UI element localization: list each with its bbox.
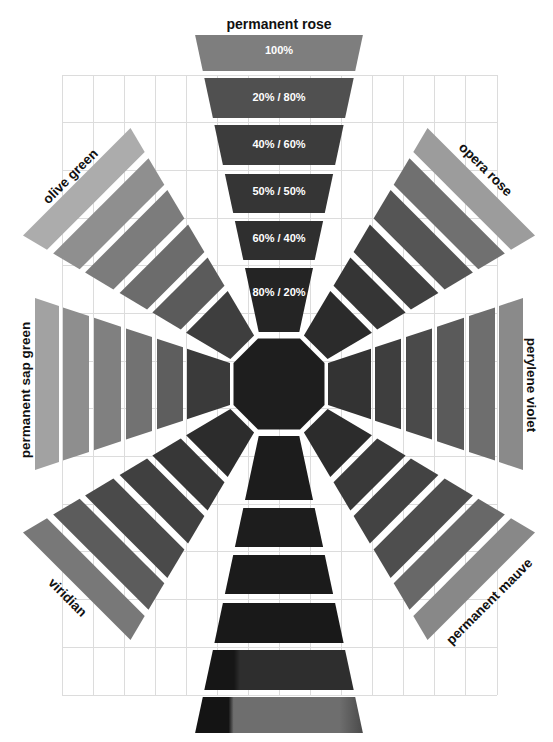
mix-label-4: 50% / 50% — [252, 185, 305, 197]
swatch-permanent-sap-green-5 — [157, 339, 183, 430]
mix-label-5: 60% / 40% — [252, 232, 305, 244]
swatch-bottom-6 — [245, 436, 313, 500]
swatch-bottom-2 — [204, 650, 353, 690]
mix-label-3: 40% / 60% — [252, 138, 305, 150]
swatch-perylene-violet-3 — [437, 318, 464, 451]
swatch-permanent-sap-green-1 — [35, 298, 59, 470]
swatch-perylene-violet-1 — [499, 298, 523, 470]
center-octagon — [234, 339, 325, 430]
mix-label-1: 100% — [265, 44, 293, 56]
swatch-perylene-violet-2 — [469, 307, 495, 460]
swatch-permanent-sap-green-3 — [94, 318, 121, 451]
swatch-bottom-3 — [214, 603, 343, 643]
swatch-permanent-sap-green-2 — [63, 307, 89, 460]
swatch-bottom-1 — [195, 697, 363, 733]
spoke-label-perylene-violet: perylene violet — [524, 338, 539, 433]
swatch-bottom-4 — [225, 555, 333, 594]
swatch-permanent-sap-green-4 — [126, 328, 152, 439]
color-mixing-wheel: 100% 20% / 80% 40% / 60% 50% / 50% 60% /… — [0, 0, 553, 742]
mix-label-6: 80% / 20% — [252, 286, 305, 298]
swatch-bottom-5 — [235, 508, 323, 547]
swatch-perylene-violet-5 — [375, 339, 401, 430]
spoke-label-permanent-sap-green: permanent sap green — [18, 322, 33, 459]
swatch-perylene-violet-4 — [406, 328, 432, 439]
spoke-label-permanent-rose: permanent rose — [226, 16, 331, 32]
mix-label-2: 20% / 80% — [252, 91, 305, 103]
swatch-permanent-rose-6 — [245, 268, 313, 332]
